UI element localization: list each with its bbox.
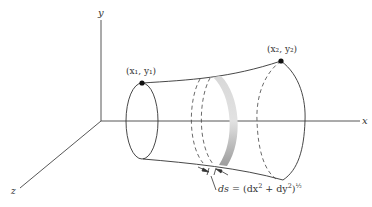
axes: [20, 20, 360, 188]
end-cross-section-back: [257, 61, 281, 179]
end-cross-section-front: [281, 61, 305, 180]
arc-length-formula: ds = (dx2 + dy2)½: [218, 182, 302, 194]
z-axis-label: z: [10, 186, 16, 196]
surface-of-revolution-diagram: y x z (x₁, y₁) (x₂, y₂) ds = (dx2 + dy2)…: [0, 0, 372, 207]
z-axis: [20, 121, 101, 188]
start-point-marker: [139, 80, 144, 85]
y-axis-label: y: [97, 7, 104, 18]
upper-profile-curve: [142, 61, 281, 83]
lower-profile-curve: [143, 159, 283, 180]
end-point-marker: [278, 58, 283, 63]
start-point-label: (x₁, y₁): [126, 66, 156, 76]
end-point-label: (x₂, y₂): [267, 44, 297, 54]
x-axis-label: x: [362, 115, 368, 126]
